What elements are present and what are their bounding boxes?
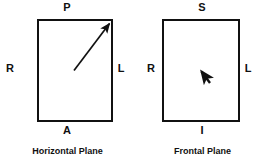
label-left: L (242, 63, 254, 74)
label-left: L (115, 63, 127, 74)
label-posterior: P (61, 2, 73, 13)
caption-horizontal-plane: Horizontal Plane (0, 146, 135, 156)
label-right: R (145, 63, 157, 74)
diagram-frontal-plane: S R L I Frontal Plane (135, 0, 270, 163)
label-right: R (4, 63, 16, 74)
horizontal-plane-square (37, 19, 113, 122)
label-anterior: A (61, 125, 73, 136)
diagram-horizontal-plane: P R L A Horizontal Plane (0, 0, 135, 163)
label-inferior: I (196, 125, 208, 136)
label-superior: S (196, 2, 208, 13)
caption-frontal-plane: Frontal Plane (135, 146, 270, 156)
frontal-plane-square (162, 19, 240, 122)
figure-canvas: P R L A Horizontal Plane S R L I Frontal… (0, 0, 270, 163)
